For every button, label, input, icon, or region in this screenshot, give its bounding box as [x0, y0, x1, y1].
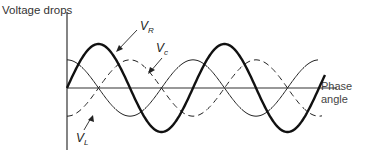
vc-label: Vc [156, 41, 168, 57]
vl-label: VL [76, 131, 88, 147]
phase-diagram: VR Vc VL [0, 0, 365, 152]
vr-label: VR [140, 19, 154, 35]
